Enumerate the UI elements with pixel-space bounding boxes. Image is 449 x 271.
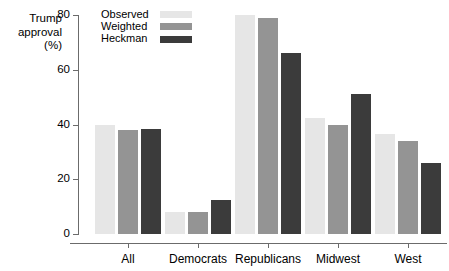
y-tick-mark (73, 234, 78, 235)
bar-midwest-observed (305, 118, 325, 234)
bar-west-observed (375, 134, 395, 234)
y-tick-label: 40 (57, 118, 70, 130)
x-tick-label-democrats: Democrats (169, 252, 227, 266)
y-tick-label: 20 (57, 172, 70, 184)
x-axis-spine (70, 243, 447, 244)
y-tick-label: 0 (64, 227, 70, 239)
bar-republicans-weighted (258, 18, 278, 234)
bar-midwest-weighted (328, 125, 348, 235)
x-tick-mark-all (128, 243, 129, 248)
x-tick-label-all: All (121, 252, 134, 266)
y-tick-label: 60 (57, 63, 70, 75)
bars-layer (78, 10, 447, 234)
bar-democrats-heckman (211, 200, 231, 234)
bar-republicans-observed (235, 15, 255, 234)
x-tick-mark-democrats (198, 243, 199, 248)
x-tick-mark-midwest (338, 243, 339, 248)
bar-west-heckman (421, 163, 441, 234)
y-axis-title-line-2: approval (0, 26, 62, 40)
x-tick-label-west: West (394, 252, 421, 266)
y-axis-title-line-3: (%) (0, 39, 62, 53)
x-tick-label-republicans: Republicans (235, 252, 301, 266)
y-axis-title-line-1: Trump (0, 12, 62, 26)
x-tick-label-midwest: Midwest (316, 252, 360, 266)
x-tick-mark-west (408, 243, 409, 248)
y-tick-label: 80 (57, 8, 70, 20)
bar-all-weighted (118, 130, 138, 234)
bar-all-heckman (141, 129, 161, 234)
plot-area: 020406080 AllDemocratsRepublicansMidwest… (78, 10, 447, 243)
bar-democrats-weighted (188, 212, 208, 234)
bar-democrats-observed (165, 212, 185, 234)
bar-chart-figure: Trump approval (%) Observed Weighted Hec… (0, 0, 449, 271)
bar-republicans-heckman (281, 53, 301, 234)
bar-midwest-heckman (351, 94, 371, 234)
x-tick-mark-republicans (268, 243, 269, 248)
bar-west-weighted (398, 141, 418, 234)
bar-all-observed (95, 125, 115, 235)
y-axis-title: Trump approval (%) (0, 12, 62, 53)
